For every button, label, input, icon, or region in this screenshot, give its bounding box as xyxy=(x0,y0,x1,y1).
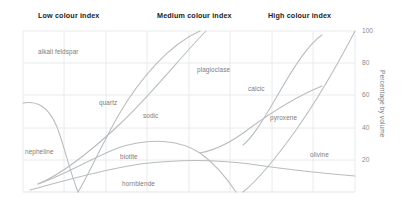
grid-lines xyxy=(23,31,355,192)
column-header-medium-colour-index: Medium colour index xyxy=(157,11,232,20)
mineral-label-hornblende: hornblende xyxy=(122,180,155,187)
chart-canvas xyxy=(0,0,413,209)
column-header-high-colour-index: High colour index xyxy=(268,11,331,20)
mineral-composition-chart: Low colour index Medium colour index Hig… xyxy=(0,0,413,209)
mineral-label-olivine: olivine xyxy=(310,151,329,158)
y-axis-tick-60: 60 xyxy=(362,91,369,98)
curve-quartz xyxy=(78,31,200,192)
mineral-label-plagioclase: plagioclase xyxy=(197,66,230,73)
y-axis-tick-40: 40 xyxy=(362,124,369,131)
mineral-label-biotite: biotite xyxy=(120,153,138,160)
curve-olivine xyxy=(243,31,355,192)
mineral-label-calcic: calcic xyxy=(248,85,265,92)
y-axis-title: Percentage by volume xyxy=(379,70,386,138)
mineral-label-alkali-feldspar: alkali feldspar xyxy=(38,48,79,55)
curve-hornblende xyxy=(30,161,355,190)
y-axis-tick-100: 100 xyxy=(362,27,373,34)
column-header-low-colour-index: Low colour index xyxy=(38,11,100,20)
mineral-label-quartz: quartz xyxy=(99,99,117,106)
mineral-label-sodic: sodic xyxy=(143,112,158,119)
y-axis-tick-80: 80 xyxy=(362,59,369,66)
mineral-label-pyroxene: pyroxene xyxy=(270,114,297,121)
mineral-label-nepheline: nepheline xyxy=(25,148,54,155)
y-axis-tick-20: 20 xyxy=(362,156,369,163)
